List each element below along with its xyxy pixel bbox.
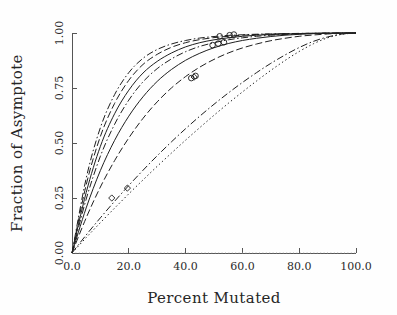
y-tick-label-1: 0.25	[53, 186, 66, 211]
marker-low-b	[124, 185, 130, 191]
chart-canvas: 0.020.040.060.080.0100.00.000.250.500.75…	[0, 0, 397, 315]
curve-5	[72, 33, 356, 253]
curves-layer	[72, 33, 356, 253]
x-tick-label-3: 60.0	[230, 260, 255, 273]
curve-2	[72, 33, 356, 253]
y-tick-label-2: 0.50	[53, 131, 66, 156]
curve-1	[72, 33, 356, 253]
curve-6	[72, 33, 356, 253]
y-tick-label-0: 0.00	[53, 241, 66, 266]
x-tick-label-2: 40.0	[173, 260, 198, 273]
curve-8	[72, 33, 356, 253]
figure-page: 0.020.040.060.080.0100.00.000.250.500.75…	[0, 0, 397, 315]
marker-high-a	[210, 42, 216, 48]
curve-4	[72, 33, 356, 253]
data-point-markers	[109, 32, 237, 201]
y-tick-label-3: 0.75	[53, 76, 66, 101]
x-tick-label-1: 20.0	[117, 260, 142, 273]
x-axis-title: Percent Mutated	[147, 289, 281, 307]
x-tick-label-5: 100.0	[340, 260, 372, 273]
y-axis-title: Fraction of Asymptote	[8, 54, 26, 232]
axis-labels-layer: 0.020.040.060.080.0100.00.000.250.500.75…	[8, 21, 372, 307]
axis-spines	[72, 33, 356, 253]
axes-layer	[72, 33, 356, 253]
curve-7	[72, 33, 356, 253]
y-tick-label-4: 1.00	[53, 21, 66, 46]
marker-low-a	[109, 195, 115, 201]
x-tick-label-4: 80.0	[287, 260, 312, 273]
curve-3	[72, 33, 356, 253]
